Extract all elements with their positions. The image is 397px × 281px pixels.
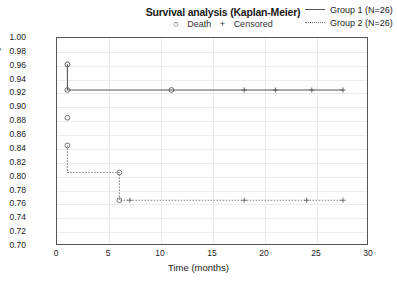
x-tick-label: 0 xyxy=(54,248,59,258)
survival-curves xyxy=(57,38,369,246)
x-tick-label: 25 xyxy=(311,248,320,258)
legend-label-group-1: Group 1 (N=26) xyxy=(330,5,393,15)
censored-marker xyxy=(273,87,278,92)
y-tick-label: 0.84 xyxy=(0,143,26,153)
death-legend-label: Death xyxy=(187,19,211,29)
x-tick-label: 10 xyxy=(155,248,164,258)
x-tick-label: 5 xyxy=(106,248,111,258)
y-tick-label: 1.00 xyxy=(0,32,26,42)
death-marker xyxy=(65,115,70,120)
y-tick-label: 0.90 xyxy=(0,101,26,111)
y-tick-label: 0.86 xyxy=(0,129,26,139)
dotted-line-icon xyxy=(305,22,325,24)
legend-item-group-1: Group 1 (N=26) xyxy=(305,3,393,16)
x-axis-label: Time (months) xyxy=(0,262,397,273)
x-tick-label: 15 xyxy=(207,248,216,258)
legend-item-group-2: Group 2 (N=26) xyxy=(305,16,393,29)
legend-label-group-2: Group 2 (N=26) xyxy=(330,18,393,28)
death-symbol-icon: ○ xyxy=(173,19,178,29)
censored-marker xyxy=(340,198,345,203)
censored-marker xyxy=(242,198,247,203)
chart-figure: Survival analysis (Kaplan-Meier) ○ Death… xyxy=(0,0,397,281)
censored-marker xyxy=(127,198,132,203)
page-title: Survival analysis (Kaplan-Meier) xyxy=(133,6,313,18)
curve-group-1 xyxy=(67,64,343,90)
y-tick-label: 0.98 xyxy=(0,46,26,56)
y-tick-label: 0.88 xyxy=(0,115,26,125)
censored-symbol-icon: + xyxy=(220,19,225,29)
censored-marker xyxy=(309,87,314,92)
y-tick-label: 0.72 xyxy=(0,226,26,236)
censored-marker xyxy=(304,198,309,203)
series-legend: Group 1 (N=26) Group 2 (N=26) xyxy=(305,3,393,29)
plot-area xyxy=(56,37,368,245)
marker-legend: ○ Death + Censored xyxy=(133,19,313,29)
y-tick-label: 0.76 xyxy=(0,198,26,208)
y-tick-label: 0.96 xyxy=(0,60,26,70)
y-tick-label: 0.74 xyxy=(0,212,26,222)
curve-group-2 xyxy=(67,145,343,200)
x-tick-label: 30 xyxy=(363,248,372,258)
censored-marker xyxy=(242,87,247,92)
y-tick-label: 0.78 xyxy=(0,185,26,195)
x-tick-label: 20 xyxy=(259,248,268,258)
solid-line-icon xyxy=(305,9,325,11)
censored-legend-label: Censored xyxy=(234,19,273,29)
y-tick-label: 0.70 xyxy=(0,240,26,250)
y-tick-label: 0.92 xyxy=(0,87,26,97)
y-tick-label: 0.94 xyxy=(0,74,26,84)
y-tick-label: 0.82 xyxy=(0,157,26,167)
y-tick-label: 0.80 xyxy=(0,171,26,181)
censored-marker xyxy=(340,87,345,92)
